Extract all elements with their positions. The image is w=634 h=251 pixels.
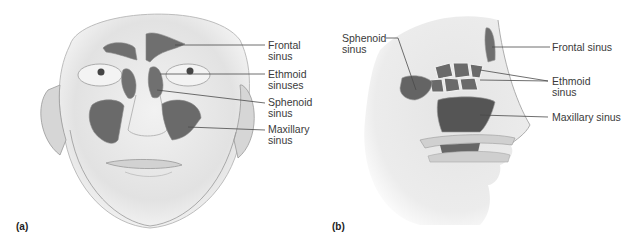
frontal-view-panel: Frontal sinus Ethmoid sinuses Sphenoid s… bbox=[0, 0, 320, 251]
label-maxillary-sinus-a: Maxillary sinus bbox=[268, 124, 309, 146]
label-ethmoid-sinus-b: Ethmoid sinus bbox=[552, 76, 591, 98]
sagittal-view-panel: Sphenoid sinus Frontal sinus Ethmoid sin… bbox=[320, 0, 634, 251]
panel-letter-a: (a) bbox=[16, 221, 28, 232]
label-sphenoid-sinus-a: Sphenoid sinus bbox=[268, 97, 312, 119]
label-ethmoid-sinuses-a: Ethmoid sinuses bbox=[268, 69, 307, 91]
label-frontal-sinus-a: Frontal sinus bbox=[268, 40, 301, 62]
label-sphenoid-sinus-b: Sphenoid sinus bbox=[342, 33, 386, 55]
panel-letter-b: (b) bbox=[332, 221, 345, 232]
label-maxillary-sinus-b: Maxillary sinus bbox=[552, 112, 621, 123]
label-frontal-sinus-b: Frontal sinus bbox=[552, 42, 612, 53]
